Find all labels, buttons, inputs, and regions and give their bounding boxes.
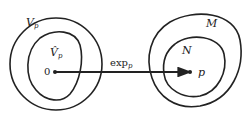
label-exp: expp [110, 57, 133, 70]
inner-region-vhat-p [28, 32, 82, 100]
exp-map-diagram: Vp V̂p 0 expp M N p [0, 0, 248, 116]
label-m: M [205, 17, 218, 30]
origin-point [53, 70, 57, 74]
label-origin: 0 [44, 66, 50, 77]
label-vp: Vp [26, 16, 39, 30]
inner-region-n [163, 37, 224, 96]
label-p: p [198, 66, 205, 79]
point-p [188, 70, 192, 74]
label-vhat-p: V̂p [50, 46, 63, 60]
outer-region-m [149, 14, 241, 107]
label-n: N [181, 44, 192, 57]
